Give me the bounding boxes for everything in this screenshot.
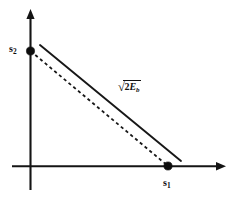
y-axis-arrowhead-icon [26, 9, 34, 19]
x-axis-arrowhead-icon [216, 162, 226, 170]
s2-label-subscript: 2 [13, 47, 17, 56]
radical-expression: √2Eb [117, 80, 141, 94]
radicand-group: 2Eb [123, 80, 140, 94]
radicand-subscript: b [136, 86, 140, 94]
s1-label-subscript: 1 [167, 181, 171, 190]
s1-axis-label: s1 [163, 178, 171, 190]
dashed-distance-line [31, 51, 169, 166]
distance-annotation: √2Eb [117, 80, 141, 94]
figure-canvas [0, 0, 234, 199]
s2-point-marker [26, 47, 34, 55]
solid-distance-line [40, 45, 181, 161]
signal-space-figure: s2 s1 √2Eb [0, 0, 234, 199]
s2-axis-label: s2 [9, 44, 17, 56]
s1-point-marker [164, 162, 172, 170]
